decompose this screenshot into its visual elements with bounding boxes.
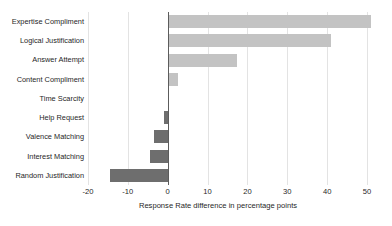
zero-gridline: [168, 12, 169, 185]
bar: [110, 169, 168, 182]
bar: [168, 73, 178, 86]
x-tick-label: 30: [267, 187, 307, 196]
bar-row: [88, 166, 367, 185]
bar-row: [88, 50, 367, 69]
gridline-50: [367, 12, 368, 185]
bar-row: [88, 31, 367, 50]
category-label: Logical Justification: [0, 31, 84, 50]
bar-row: [88, 12, 367, 31]
category-label: Answer Attempt: [0, 50, 84, 69]
bar: [168, 54, 238, 67]
x-tick-label: 20: [227, 187, 267, 196]
category-label: Time Scarcity: [0, 89, 84, 108]
bar: [168, 15, 371, 28]
category-label: Expertise Compliment: [0, 12, 84, 31]
bar-row: [88, 147, 367, 166]
x-tick-label: 50: [347, 187, 387, 196]
bar-row: [88, 89, 367, 108]
bar-row: [88, 127, 367, 146]
plot-area: [88, 12, 367, 185]
x-tick-label: 40: [307, 187, 347, 196]
x-tick-label: 10: [188, 187, 228, 196]
category-label: Content Compliment: [0, 70, 84, 89]
x-tick-label: 0: [148, 187, 188, 196]
bar: [154, 130, 168, 143]
category-label: Valence Matching: [0, 127, 84, 146]
bar-row: [88, 108, 367, 127]
x-tick-label: -10: [108, 187, 148, 196]
x-tick-label: -20: [68, 187, 108, 196]
category-label: Help Request: [0, 108, 84, 127]
bar-chart: Expertise ComplimentLogical Justificatio…: [0, 0, 392, 226]
bar-row: [88, 70, 367, 89]
x-axis-title: Response Rate difference in percentage p…: [0, 201, 392, 210]
bar: [168, 34, 331, 47]
bar: [150, 150, 168, 163]
category-label: Random Justification: [0, 166, 84, 185]
category-label: Interest Matching: [0, 147, 84, 166]
